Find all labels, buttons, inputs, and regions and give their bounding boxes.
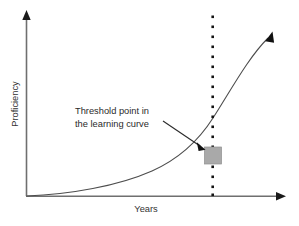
annotation-line-1: Threshold point in <box>75 106 149 116</box>
threshold-dot <box>211 166 214 169</box>
threshold-dot <box>211 16 214 19</box>
threshold-dot <box>211 36 214 39</box>
x-axis-label: Years <box>134 204 158 214</box>
y-axis-arrowhead <box>22 10 30 20</box>
threshold-dot <box>211 126 214 129</box>
threshold-dot <box>211 66 214 69</box>
learning-curve-path <box>27 38 269 196</box>
threshold-dot <box>211 96 214 99</box>
threshold-dot <box>211 136 214 139</box>
threshold-dot <box>211 86 214 89</box>
threshold-marker-square <box>205 147 222 164</box>
threshold-dot <box>211 116 214 119</box>
x-axis-arrowhead <box>276 192 286 201</box>
annotation-leader-arrowhead <box>197 142 206 151</box>
annotation-line-2: the learning curve <box>75 119 149 129</box>
learning-curve <box>27 32 275 197</box>
learning-curve-arrowhead <box>265 32 274 43</box>
threshold-dotted-line <box>211 16 214 197</box>
annotation-leader-line <box>163 121 200 146</box>
threshold-dot <box>211 176 214 179</box>
threshold-dot <box>211 56 214 59</box>
threshold-dot <box>211 194 214 197</box>
y-axis-label: Proficiency <box>10 81 20 127</box>
threshold-dot <box>211 76 214 79</box>
threshold-dot <box>211 106 214 109</box>
y-axis <box>22 10 30 196</box>
learning-curve-figure: Threshold point in the learning curve Ye… <box>0 0 299 226</box>
threshold-dot <box>211 46 214 49</box>
threshold-dot <box>211 26 214 29</box>
chart-canvas: Threshold point in the learning curve Ye… <box>0 0 299 226</box>
threshold-dot <box>211 186 214 189</box>
